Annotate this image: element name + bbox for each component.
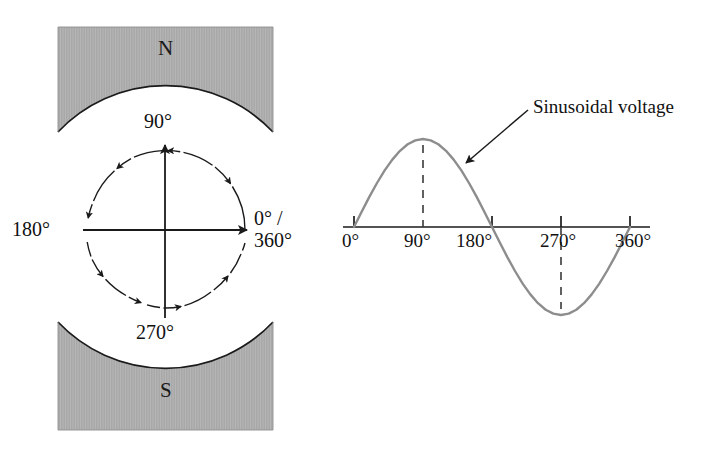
waveform-tick-label-180: 180° [456,231,492,252]
waveform-tick-label-270: 270° [540,231,576,252]
circle-label-360: 360° [254,230,292,252]
circle-label-0: 0° / [254,208,292,230]
waveform-tick-label-0: 0° [342,231,359,252]
rotation-axes [83,145,247,318]
circle-label-0-360: 0° / 360° [254,208,292,251]
circle-label-90: 90° [144,111,172,133]
sinusoidal-voltage-annotation: Sinusoidal voltage [533,97,674,118]
waveform-axis [343,216,650,227]
sinusoidal-voltage-figure: N S 90° 180° 270° 0° / 360° 0° 90° 180° … [0,0,710,453]
figure-canvas [0,0,710,453]
circle-label-270: 270° [136,322,174,344]
south-pole-label: S [160,379,172,402]
waveform-tick-label-90: 90° [404,231,431,252]
circle-label-180: 180° [12,219,50,241]
waveform-tick-label-360: 360° [615,231,651,252]
annotation-arrow [466,110,528,163]
north-pole-label: N [158,37,173,60]
